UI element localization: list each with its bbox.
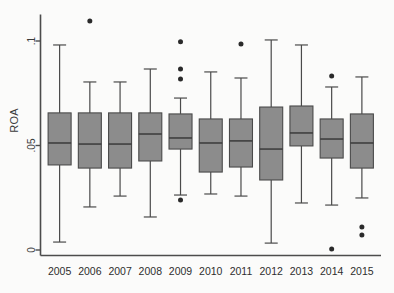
outlier-point (178, 198, 183, 203)
outlier-point (178, 39, 183, 44)
x-tick-label-2006: 2006 (78, 265, 102, 277)
outlier-point (87, 18, 92, 23)
box-iqr (260, 107, 283, 180)
box-iqr (169, 114, 192, 149)
box-iqr (290, 106, 313, 146)
box-iqr (350, 114, 373, 168)
x-tick-label-2015: 2015 (350, 265, 374, 277)
x-tick-label-2005: 2005 (48, 265, 72, 277)
box-iqr (139, 113, 162, 161)
boxplot-figure: 0.05.1ROA2005200620072008200920102011201… (0, 0, 394, 293)
outlier-point (329, 246, 334, 251)
y-tick-label: .05 (26, 138, 37, 152)
boxplot-canvas: 0.05.1ROA2005200620072008200920102011201… (0, 0, 394, 293)
x-tick-label-2009: 2009 (169, 265, 193, 277)
x-tick-label-2007: 2007 (108, 265, 132, 277)
box-iqr (109, 113, 132, 168)
outlier-point (178, 67, 183, 72)
x-tick-label-2012: 2012 (260, 265, 284, 277)
x-tick-label-2010: 2010 (199, 265, 223, 277)
box-iqr (48, 113, 71, 165)
box-iqr (78, 113, 101, 168)
y-axis-title: ROA (8, 108, 20, 133)
outlier-point (238, 41, 243, 46)
outlier-point (329, 73, 334, 78)
x-tick-label-2008: 2008 (139, 265, 163, 277)
box-iqr (199, 119, 222, 172)
y-tick-label: .1 (26, 36, 37, 45)
box-iqr (229, 119, 252, 167)
outlier-point (178, 77, 183, 82)
x-tick-label-2013: 2013 (290, 265, 314, 277)
x-tick-label-2014: 2014 (320, 265, 344, 277)
outlier-point (359, 225, 364, 230)
x-tick-label-2011: 2011 (230, 265, 253, 277)
outlier-point (359, 232, 364, 237)
y-tick-label: 0 (26, 247, 37, 253)
